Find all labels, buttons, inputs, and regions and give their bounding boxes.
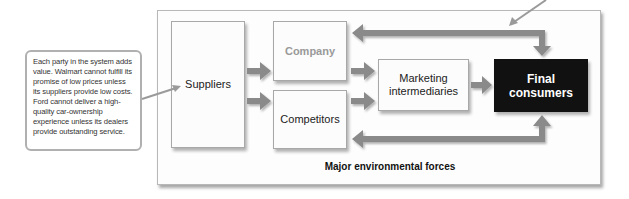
arrow-suppliers-competitors-icon [247, 92, 271, 110]
top-callout-pointer-icon [509, 17, 518, 26]
top-callout-leader-line [514, 0, 546, 22]
arrow-top-feedback-icon [352, 24, 551, 56]
arrow-company-intermediaries-icon [351, 62, 375, 80]
callout-leader-line [142, 88, 176, 99]
arrow-competitors-intermediaries-icon [351, 92, 375, 110]
arrow-suppliers-company-icon [247, 62, 271, 80]
arrows-layer [0, 0, 629, 199]
arrow-intermediaries-consumers-icon [471, 76, 492, 94]
arrow-bottom-feedback-icon [352, 115, 551, 148]
